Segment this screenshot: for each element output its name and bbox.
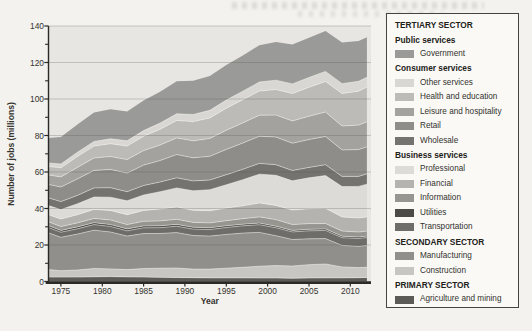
- legend-item-retail: Retail: [395, 119, 515, 133]
- legend-swatch-utilities: [395, 209, 414, 217]
- y-tick-label: 40: [35, 204, 45, 214]
- legend-label: Health and education: [420, 93, 497, 101]
- legend-item-professional: Professional: [395, 162, 515, 176]
- x-tick-label: 2010: [341, 286, 360, 296]
- x-tick-label: 1985: [134, 286, 153, 296]
- legend-panel: TERTIARY SECTORPublic servicesGovernment…: [386, 13, 519, 308]
- legend-group-heading-public-services: Public services: [395, 32, 515, 46]
- legend-item-utilities: Utilities: [395, 206, 515, 220]
- legend-label: Transportation: [420, 223, 473, 231]
- x-tick-label: 1980: [93, 286, 112, 296]
- legend-item-transportation: Transportation: [395, 220, 515, 234]
- y-tick-label: 0: [39, 277, 44, 287]
- legend-group-heading-business-services: Business services: [395, 148, 515, 162]
- legend-section-heading-tertiary-sector: TERTIARY SECTOR: [395, 18, 515, 32]
- legend-label: Information: [420, 194, 461, 202]
- legend-label: Government: [420, 50, 465, 58]
- legend-swatch-financial: [395, 180, 414, 188]
- legend-item-construction: Construction: [395, 263, 515, 277]
- legend-swatch-government: [395, 50, 414, 58]
- legend-item-information: Information: [395, 191, 515, 205]
- legend-swatch-health-and-education: [395, 93, 414, 101]
- y-tick-label: 120: [30, 58, 44, 68]
- legend-label: Professional: [420, 165, 465, 173]
- legend-label: Consumer services: [395, 64, 472, 72]
- y-tick-label: 20: [35, 240, 45, 250]
- legend-swatch-retail: [395, 122, 414, 130]
- legend-swatch-wholesale: [395, 137, 414, 145]
- y-axis-title: Number of jobs (millions): [6, 102, 16, 206]
- legend-group-heading-consumer-services: Consumer services: [395, 61, 515, 75]
- legend-swatch-transportation: [395, 223, 414, 231]
- legend-item-leisure-and-hospitality: Leisure and hospitality: [395, 105, 515, 119]
- legend-swatch-information: [395, 194, 414, 202]
- x-tick-label: 1975: [52, 286, 71, 296]
- legend-label: Leisure and hospitality: [420, 108, 501, 116]
- legend-section-heading-primary-sector: PRIMARY SECTOR: [395, 278, 515, 292]
- x-tick-label: 1995: [217, 286, 236, 296]
- legend-section-heading-secondary-sector: SECONDARY SECTOR: [395, 235, 515, 249]
- legend-label: Utilities: [420, 209, 446, 217]
- x-axis-labels: 19751980198519901995200020052010: [52, 284, 360, 296]
- legend-label: Business services: [395, 151, 467, 159]
- legend-swatch-leisure-and-hospitality: [395, 108, 414, 116]
- legend-label: Financial: [420, 180, 453, 188]
- legend-item-health-and-education: Health and education: [395, 90, 515, 104]
- legend-swatch-manufacturing: [395, 252, 414, 260]
- legend-label: Manufacturing: [420, 252, 472, 260]
- legend-swatch-construction: [395, 267, 414, 275]
- legend-label: Construction: [420, 267, 466, 275]
- legend-label: TERTIARY SECTOR: [395, 21, 473, 29]
- x-tick-label: 2000: [258, 286, 277, 296]
- legend-swatch-agriculture-and-mining: [395, 296, 414, 304]
- legend-label: Public services: [395, 36, 455, 44]
- y-tick-label: 100: [30, 94, 44, 104]
- y-tick-label: 80: [35, 131, 45, 141]
- legend-item-agriculture-and-mining: Agriculture and mining: [395, 292, 515, 306]
- legend-label: Agriculture and mining: [420, 295, 501, 303]
- legend-label: Retail: [420, 122, 441, 130]
- y-tick-label: 60: [35, 167, 45, 177]
- legend-item-government: Government: [395, 47, 515, 61]
- x-axis-title: Year: [201, 296, 220, 306]
- x-tick-label: 2005: [300, 286, 319, 296]
- legend-label: SECONDARY SECTOR: [395, 238, 484, 246]
- y-tick-label: 140: [30, 21, 44, 31]
- legend-label: Wholesale: [420, 137, 458, 145]
- legend-item-financial: Financial: [395, 177, 515, 191]
- legend-item-other-services: Other services: [395, 76, 515, 90]
- legend-swatch-professional: [395, 166, 414, 174]
- legend-item-wholesale: Wholesale: [395, 134, 515, 148]
- x-tick-label: 1990: [176, 286, 195, 296]
- legend-label: Other services: [420, 79, 473, 87]
- scanned-figure-page: 0204060801001201401975198019851990199520…: [0, 0, 532, 331]
- legend-item-manufacturing: Manufacturing: [395, 249, 515, 263]
- legend-swatch-other-services: [395, 79, 414, 87]
- legend-label: PRIMARY SECTOR: [395, 281, 470, 289]
